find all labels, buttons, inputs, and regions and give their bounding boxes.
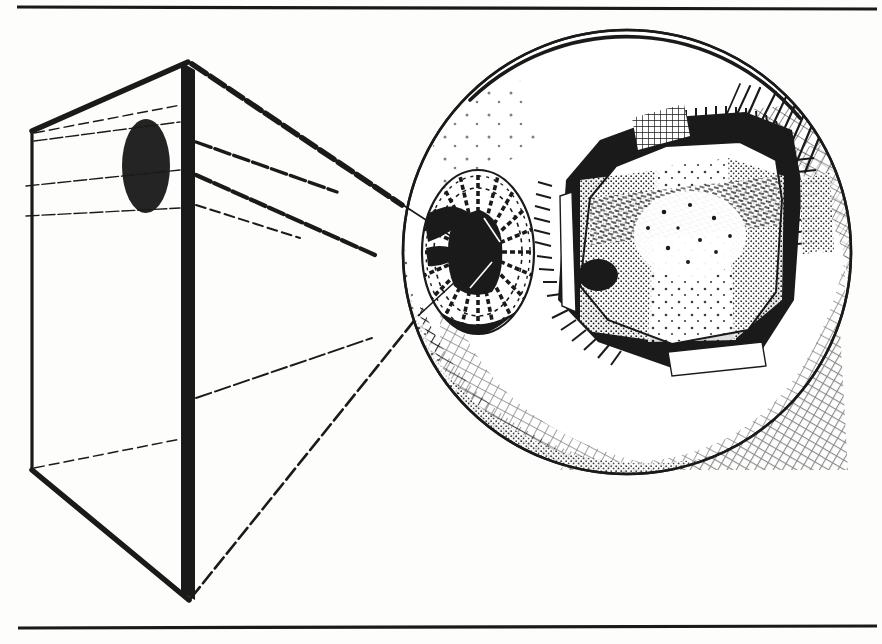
lens-body (558, 112, 802, 368)
suspensory-stipple (796, 150, 844, 262)
viewing-box (32, 62, 418, 600)
lens-inclusion (578, 259, 618, 291)
illustration-page: Perspective viewing box and sectioned ey… (0, 0, 882, 644)
target-ellipse (122, 119, 170, 213)
picture-plane-bar (181, 62, 195, 600)
sight-lines (26, 122, 375, 398)
figure-illustration (0, 0, 882, 644)
eyeball (402, 30, 860, 478)
top-rule (17, 7, 877, 9)
bottom-rule (18, 626, 877, 628)
